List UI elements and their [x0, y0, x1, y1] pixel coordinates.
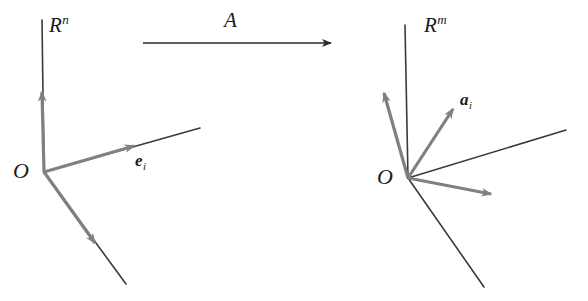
basis-vector-e-i	[44, 146, 134, 172]
image-vector-base: a	[460, 90, 469, 109]
map-label: A	[224, 10, 237, 31]
domain-space-exponent: n	[62, 12, 69, 27]
map-label-text: A	[224, 8, 237, 32]
origin-left-text: O	[13, 158, 29, 183]
left-vertical-unit-vector	[42, 92, 44, 172]
basis-vector-label: ei	[135, 152, 146, 169]
origin-label-right: O	[377, 166, 393, 188]
codomain-space-exponent: m	[437, 12, 446, 27]
basis-vector-base: e	[135, 151, 143, 170]
domain-space-base: R	[49, 13, 62, 37]
vectors-layer	[0, 0, 588, 301]
left-lower-unit-vector	[44, 172, 95, 243]
image-vector-label: ai	[460, 91, 472, 108]
linear-map-diagram: Rn Rm O O A ei ai	[0, 0, 588, 301]
image-vector-right	[408, 178, 491, 194]
origin-right-text: O	[377, 164, 393, 189]
image-vector-index: i	[469, 100, 472, 111]
codomain-space-base: R	[424, 13, 437, 37]
basis-vector-index: i	[143, 161, 146, 172]
domain-space-label: Rn	[49, 15, 69, 36]
image-vector-a-i	[408, 109, 453, 178]
codomain-space-label: Rm	[424, 15, 447, 36]
origin-label-left: O	[13, 160, 29, 182]
